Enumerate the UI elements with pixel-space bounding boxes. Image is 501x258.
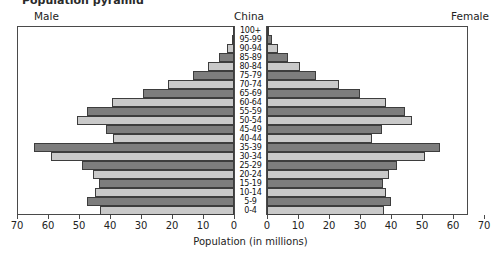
x-axis-title: Population (in millions): [0, 236, 501, 247]
bar-male-65-69: [143, 89, 234, 98]
x-tick-label-male-60: 60: [35, 220, 61, 232]
chart-title-cropped: Population pyramid: [0, 0, 501, 6]
x-tick-label-female-40: 40: [378, 220, 404, 232]
population-pyramid-chart: Population pyramid Male China Female 100…: [0, 0, 501, 258]
bar-male-85-89: [219, 53, 234, 62]
bar-male-25-29: [82, 161, 234, 170]
bar-female-0-4: [267, 206, 384, 215]
age-label-40-44: 40-44: [234, 134, 267, 143]
x-tick-label-male-30: 30: [128, 220, 154, 232]
age-label-85-89: 85-89: [234, 53, 267, 62]
x-tick-label-female-10: 10: [285, 220, 311, 232]
bar-male-55-59: [87, 107, 234, 116]
age-label-70-74: 70-74: [234, 80, 267, 89]
male-side-label: Male: [34, 9, 59, 23]
bar-female-65-69: [267, 89, 360, 98]
bar-male-75-79: [193, 71, 234, 80]
bar-male-0-4: [100, 206, 234, 215]
bar-male-70-74: [168, 80, 234, 89]
bar-male-30-34: [51, 152, 234, 161]
bar-female-30-34: [267, 152, 425, 161]
age-label-100+: 100+: [234, 26, 267, 35]
x-tick-male-20: [172, 215, 173, 219]
bar-male-15-19: [99, 179, 234, 188]
x-tick-label-male-40: 40: [97, 220, 123, 232]
chart-country-title: China: [234, 9, 264, 23]
x-tick-label-female-20: 20: [316, 220, 342, 232]
bar-female-85-89: [267, 53, 288, 62]
bar-female-55-59: [267, 107, 405, 116]
x-tick-female-0: [267, 215, 268, 219]
bar-female-75-79: [267, 71, 316, 80]
age-label-5-9: 5-9: [234, 197, 267, 206]
x-tick-label-male-10: 10: [190, 220, 216, 232]
bar-female-60-64: [267, 98, 386, 107]
age-label-95-99: 95-99: [234, 35, 267, 44]
bar-female-40-44: [267, 134, 372, 143]
age-label-10-14: 10-14: [234, 188, 267, 197]
x-tick-male-70: [17, 215, 18, 219]
age-label-75-79: 75-79: [234, 71, 267, 80]
x-tick-male-60: [48, 215, 49, 219]
bar-female-80-84: [267, 62, 300, 71]
chart-header: Male China Female: [0, 9, 501, 23]
bar-male-80-84: [208, 62, 234, 71]
age-label-45-49: 45-49: [234, 125, 267, 134]
x-tick-male-30: [141, 215, 142, 219]
x-tick-female-10: [298, 215, 299, 219]
x-tick-male-50: [79, 215, 80, 219]
x-tick-female-60: [453, 215, 454, 219]
age-label-80-84: 80-84: [234, 62, 267, 71]
bar-female-15-19: [267, 179, 383, 188]
x-tick-male-0: [234, 215, 235, 219]
bar-female-5-9: [267, 197, 391, 206]
age-label-25-29: 25-29: [234, 161, 267, 170]
age-label-90-94: 90-94: [234, 44, 267, 53]
bar-female-35-39: [267, 143, 440, 152]
x-tick-label-male-20: 20: [159, 220, 185, 232]
bar-female-10-14: [267, 188, 386, 197]
bar-female-45-49: [267, 125, 382, 134]
bar-male-35-39: [34, 143, 234, 152]
age-label-60-64: 60-64: [234, 98, 267, 107]
x-tick-label-female-50: 50: [409, 220, 435, 232]
bar-female-70-74: [267, 80, 339, 89]
x-tick-male-10: [203, 215, 204, 219]
x-tick-male-40: [110, 215, 111, 219]
bar-female-100+: [267, 26, 269, 35]
bar-female-90-94: [267, 44, 278, 53]
x-tick-label-female-60: 60: [440, 220, 466, 232]
bar-male-5-9: [87, 197, 234, 206]
x-tick-label-female-30: 30: [347, 220, 373, 232]
age-label-65-69: 65-69: [234, 89, 267, 98]
bar-female-25-29: [267, 161, 397, 170]
x-tick-label-female-70: 70: [471, 220, 497, 232]
age-label-50-54: 50-54: [234, 116, 267, 125]
x-tick-female-50: [422, 215, 423, 219]
bar-male-10-14: [95, 188, 235, 197]
bar-male-60-64: [112, 98, 234, 107]
x-tick-female-70: [484, 215, 485, 219]
age-label-0-4: 0-4: [234, 206, 267, 215]
age-label-30-34: 30-34: [234, 152, 267, 161]
x-axis: Population (in millions) 706050403020100…: [0, 215, 501, 258]
x-tick-label-male-50: 50: [66, 220, 92, 232]
x-tick-label-male-70: 70: [4, 220, 30, 232]
x-tick-female-30: [360, 215, 361, 219]
age-label-35-39: 35-39: [234, 143, 267, 152]
x-tick-label-female-0: 0: [254, 220, 280, 232]
x-tick-female-40: [391, 215, 392, 219]
x-tick-female-20: [329, 215, 330, 219]
bar-male-40-44: [113, 134, 234, 143]
bar-male-45-49: [106, 125, 234, 134]
bar-female-95-99: [267, 35, 272, 44]
age-label-15-19: 15-19: [234, 179, 267, 188]
bar-male-20-24: [93, 170, 234, 179]
bar-male-90-94: [227, 44, 234, 53]
age-label-20-24: 20-24: [234, 170, 267, 179]
female-side-label: Female: [451, 9, 489, 23]
bar-female-20-24: [267, 170, 389, 179]
x-tick-label-male-0: 0: [221, 220, 247, 232]
bar-male-50-54: [77, 116, 234, 125]
age-label-55-59: 55-59: [234, 107, 267, 116]
